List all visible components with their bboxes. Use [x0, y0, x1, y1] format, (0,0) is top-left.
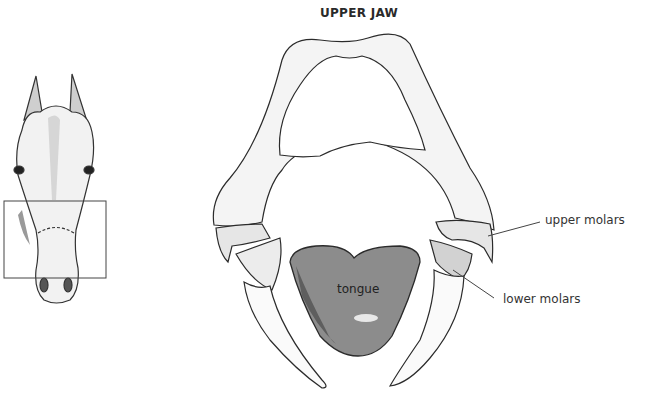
upper-jaw-bone — [213, 34, 494, 230]
upper-molars-leader — [488, 222, 540, 236]
jaw-diagram — [0, 0, 648, 410]
horse-head-illustration — [14, 74, 94, 303]
label-lower-molars: lower molars — [503, 292, 581, 306]
label-tongue: tongue — [337, 282, 379, 296]
label-upper-molars: upper molars — [545, 213, 625, 227]
